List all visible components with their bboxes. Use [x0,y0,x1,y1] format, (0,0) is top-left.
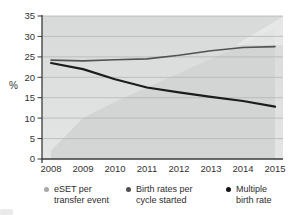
x-tick-label-2012: 2012 [168,163,189,174]
y-tick-label-10: 10 [24,113,35,124]
x-tick-label-2008: 2008 [40,163,61,174]
x-tick-label-2014: 2014 [232,163,253,174]
y-tick-label-0: 0 [30,153,35,164]
x-tick-label-2013: 2013 [200,163,221,174]
line-area-chart: 05101520253035%2008200920102011201220132… [0,0,298,215]
y-tick-label-5: 5 [30,133,35,144]
chart-figure: 05101520253035%2008200920102011201220132… [0,0,298,215]
y-tick-label-15: 15 [24,92,35,103]
y-tick-label-25: 25 [24,51,35,62]
x-tick-label-2011: 2011 [137,163,157,174]
x-tick-label-2015: 2015 [264,163,285,174]
y-tick-label-20: 20 [24,72,35,83]
y-axis-unit-label: % [9,80,18,91]
y-tick-label-30: 30 [24,31,35,42]
x-tick-label-2009: 2009 [72,163,93,174]
x-tick-label-2010: 2010 [104,163,125,174]
y-tick-label-35: 35 [24,10,35,21]
page-corner-artifact [0,209,13,215]
